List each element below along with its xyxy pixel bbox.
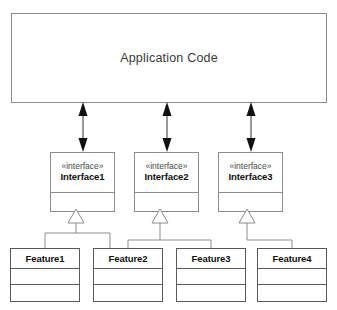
dependency-arrow-interface3 [247,102,256,152]
feature-box-feature4[interactable]: Feature4 [257,248,327,302]
interface-members-compartment [51,193,114,212]
realization-arrow-interface2 [128,209,211,248]
realization-arrow-interface1 [45,209,110,248]
interface-header: «interface» Interface3 [219,153,282,193]
feature-attributes-compartment [11,269,79,285]
feature-name-label: Feature2 [109,253,148,264]
feature-box-feature2[interactable]: Feature2 [93,248,163,302]
realization-arrow-interface3 [239,209,292,248]
interface-header: «interface» Interface2 [135,153,198,193]
interface-header: «interface» Interface1 [51,153,114,193]
dependency-arrow-interface1 [79,102,88,152]
feature-attributes-compartment [258,269,326,285]
feature-header: Feature3 [177,249,245,269]
feature-operations-compartment [94,285,162,301]
feature-operations-compartment [11,285,79,301]
interface-name-label: Interface1 [61,172,105,183]
uml-diagram-canvas: Application Code «interface» Interface1 … [0,0,337,310]
feature-header: Feature1 [11,249,79,269]
feature-box-feature1[interactable]: Feature1 [10,248,80,302]
feature-attributes-compartment [94,269,162,285]
feature-name-label: Feature1 [26,253,65,264]
feature-name-label: Feature3 [192,253,231,264]
interface-members-compartment [135,193,198,212]
interface-name-label: Interface2 [145,172,189,183]
interface-members-compartment [219,193,282,212]
interface-box-interface1[interactable]: «interface» Interface1 [50,152,115,212]
application-code-box[interactable]: Application Code [11,13,327,103]
application-code-label: Application Code [120,51,218,65]
feature-operations-compartment [258,285,326,301]
feature-header: Feature4 [258,249,326,269]
dependency-arrow-interface2 [163,102,172,152]
interface-box-interface2[interactable]: «interface» Interface2 [134,152,199,212]
feature-operations-compartment [177,285,245,301]
feature-attributes-compartment [177,269,245,285]
feature-box-feature3[interactable]: Feature3 [176,248,246,302]
feature-header: Feature2 [94,249,162,269]
interface-name-label: Interface3 [229,172,273,183]
feature-name-label: Feature4 [273,253,312,264]
interface-box-interface3[interactable]: «interface» Interface3 [218,152,283,212]
